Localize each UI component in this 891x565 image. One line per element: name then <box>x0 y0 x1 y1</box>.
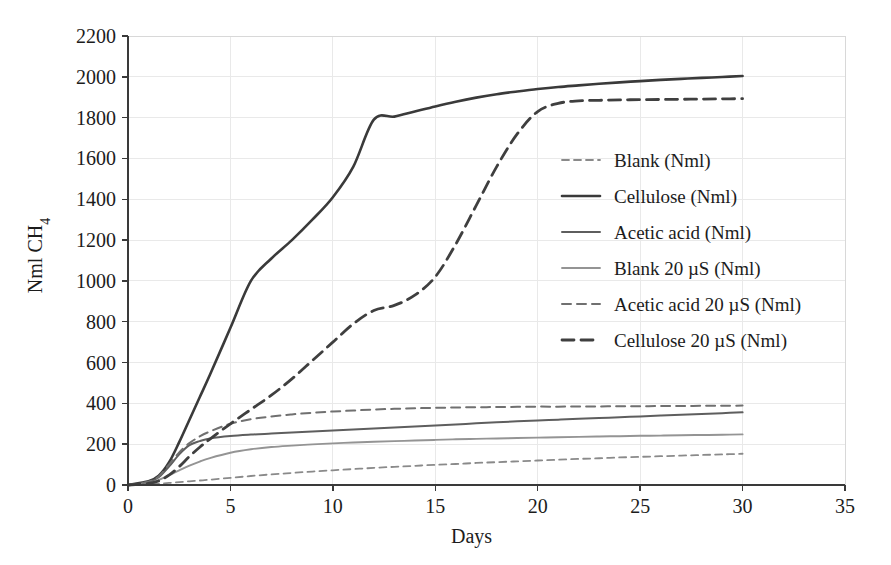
legend-label-1: Cellulose (Nml) <box>614 186 737 208</box>
legend-label-2: Acetic acid (Nml) <box>614 222 751 244</box>
x-tick-label: 25 <box>630 495 650 517</box>
y-tick-label: 600 <box>86 352 116 374</box>
y-tick-label: 0 <box>106 474 116 496</box>
x-axis-title: Days <box>451 525 492 548</box>
y-tick-label: 200 <box>86 433 116 455</box>
legend-label-4: Acetic acid 20 µS (Nml) <box>614 294 801 316</box>
legend-label-3: Blank 20 µS (Nml) <box>614 258 761 280</box>
y-tick-label: 1400 <box>76 188 116 210</box>
x-tick-label: 5 <box>225 495 235 517</box>
line-chart: 0200400600800100012001400160018002000220… <box>0 0 891 565</box>
y-tick-label: 800 <box>86 311 116 333</box>
y-tick-label: 1000 <box>76 270 116 292</box>
x-tick-label: 20 <box>528 495 548 517</box>
y-tick-label: 1800 <box>76 107 116 129</box>
y-tick-label: 2000 <box>76 66 116 88</box>
chart-figure: 0200400600800100012001400160018002000220… <box>0 0 891 565</box>
x-tick-label: 0 <box>123 495 133 517</box>
y-tick-label: 1600 <box>76 147 116 169</box>
x-tick-label: 10 <box>323 495 343 517</box>
x-tick-label: 15 <box>425 495 445 517</box>
legend-label-0: Blank (Nml) <box>614 150 711 172</box>
legend-label-5: Cellulose 20 µS (Nml) <box>614 330 787 352</box>
y-tick-labels: 0200400600800100012001400160018002000220… <box>76 25 116 496</box>
y-tick-label: 1200 <box>76 229 116 251</box>
x-tick-label: 30 <box>733 495 753 517</box>
y-tick-label: 400 <box>86 392 116 414</box>
x-tick-labels: 05101520253035 <box>123 495 855 517</box>
y-axis-title: Nml CH4 <box>24 218 53 293</box>
x-tick-label: 35 <box>835 495 855 517</box>
y-tick-label: 2200 <box>76 25 116 47</box>
